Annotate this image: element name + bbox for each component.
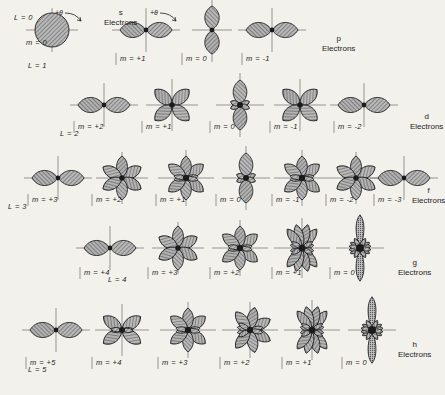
m-label-d-1: m = +1 (146, 123, 172, 131)
m-label-f-2: m = +1 (160, 196, 186, 204)
m-label-p-1: m = 0 (186, 55, 207, 63)
shell-letter-s: s (104, 8, 137, 18)
m-label-d-2: m = 0 (214, 123, 235, 131)
m-label-s-0: m = 0 (26, 39, 47, 47)
shell-word-d: Electrons (410, 122, 443, 132)
orbital-row-p (112, 0, 306, 62)
m-label-g-1: m = +3 (152, 269, 178, 277)
orbital-p-1 (192, 0, 232, 62)
shell-letter-f: f (412, 186, 445, 196)
theta-arrow-0 (64, 11, 86, 25)
m-label-g-0: m = +4 (84, 269, 110, 277)
m-label-f-6: m = -3 (378, 196, 402, 204)
shell-letter-p: p (322, 34, 355, 44)
m-label-h-4: m = +1 (286, 359, 312, 367)
m-label-f-1: m = +2 (96, 196, 122, 204)
m-label-d-4: m = -2 (338, 123, 362, 131)
m-label-h-3: m = +2 (224, 359, 250, 367)
shell-label-d: dElectrons (410, 112, 443, 132)
orbital-h-5 (348, 296, 396, 364)
l-label-f: L = 3 (8, 203, 27, 211)
orbital-h-3 (222, 302, 278, 358)
orbital-d-4 (330, 83, 398, 127)
shell-word-s: Electrons (104, 18, 137, 28)
shell-letter-h: h (398, 340, 431, 350)
orbital-row-h (22, 296, 396, 364)
orbital-g-1 (152, 222, 204, 274)
m-label-f-5: m = -2 (330, 196, 354, 204)
m-label-d-3: m = -1 (274, 123, 298, 131)
m-label-h-0: m = +5 (30, 359, 56, 367)
orbital-h-2 (160, 302, 216, 358)
l-label-d: L = 2 (60, 130, 79, 138)
l-label-s: L = 0 (14, 14, 33, 22)
m-label-d-0: m = +2 (78, 123, 104, 131)
m-label-h-1: m = +4 (96, 359, 122, 367)
orbital-p-2 (238, 8, 306, 52)
orbital-g-0 (76, 226, 144, 270)
shell-word-p: Electrons (322, 44, 355, 54)
theta-angle-label-0: +θ (55, 9, 63, 16)
shell-label-s: sElectrons (104, 8, 137, 28)
m-label-p-0: m = +1 (120, 55, 146, 63)
shell-word-g: Electrons (398, 268, 431, 278)
l-label-p: L = 1 (28, 62, 47, 70)
shell-letter-g: g (398, 258, 431, 268)
l-label-g: L = 4 (108, 276, 127, 284)
m-label-g-4: m = 0 (334, 269, 355, 277)
orbital-h-4 (284, 300, 340, 360)
m-label-p-2: m = -1 (246, 55, 270, 63)
shell-word-h: Electrons (398, 350, 431, 360)
l-label-h: L = 5 (28, 366, 47, 374)
orbital-h-0 (22, 308, 90, 352)
orbital-h-1 (95, 304, 149, 356)
shell-label-g: gElectrons (398, 258, 431, 278)
orbital-d-0 (70, 83, 138, 127)
shell-letter-d: d (410, 112, 443, 122)
theta-arrow-1 (159, 11, 181, 25)
theta-angle-label-1: +θ (150, 9, 158, 16)
m-label-h-2: m = +3 (162, 359, 188, 367)
m-label-f-3: m = 0 (220, 196, 241, 204)
orbital-f-0 (24, 156, 92, 200)
shell-label-h: hElectrons (398, 340, 431, 360)
m-label-g-2: m = +2 (214, 269, 240, 277)
m-label-f-4: m = -1 (276, 196, 300, 204)
shell-label-p: pElectrons (322, 34, 355, 54)
m-label-g-3: m = +1 (276, 269, 302, 277)
m-label-f-0: m = +3 (32, 196, 58, 204)
shell-word-f: Electrons (412, 196, 445, 206)
m-label-h-5: m = 0 (346, 359, 367, 367)
shell-label-f: fElectrons (412, 186, 445, 206)
